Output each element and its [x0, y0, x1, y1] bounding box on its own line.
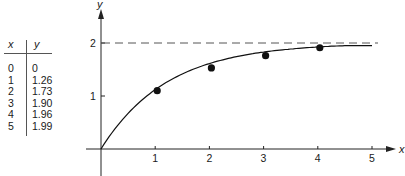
y-tick-label: 1 — [90, 90, 96, 102]
x-axis-label: x — [398, 143, 405, 155]
curve-line — [101, 46, 372, 149]
x-tick-label: 4 — [315, 152, 321, 164]
data-point — [262, 52, 269, 59]
x-axis-arrow-icon — [386, 146, 396, 152]
data-point — [316, 44, 323, 51]
data-point — [208, 64, 215, 71]
y-axis-label: y — [96, 0, 104, 10]
x-tick-label: 2 — [206, 152, 212, 164]
data-point — [154, 87, 161, 94]
x-tick-label: 5 — [369, 152, 375, 164]
x-tick-label: 3 — [261, 152, 267, 164]
x-tick-label: 1 — [152, 152, 158, 164]
y-tick-label: 2 — [90, 37, 96, 49]
chart: x y 12345 12 — [0, 0, 405, 176]
y-axis-arrow-icon — [98, 9, 104, 19]
